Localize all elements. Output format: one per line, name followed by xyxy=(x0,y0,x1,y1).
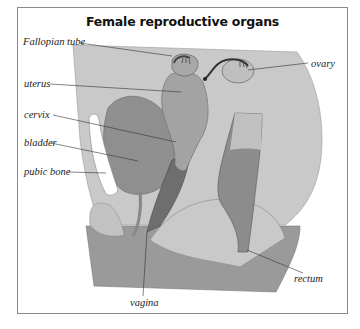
label-pubic-bone: pubic bone xyxy=(24,166,70,177)
label-ovary: ovary xyxy=(311,58,335,69)
label-vagina: vagina xyxy=(130,297,159,308)
ovary-shape xyxy=(222,59,254,83)
label-bladder: bladder xyxy=(24,137,57,148)
label-fallopian-tube: Fallopian tube xyxy=(23,36,85,47)
label-cervix: cervix xyxy=(24,109,50,120)
rectum-upper xyxy=(230,113,262,150)
label-rectum: rectum xyxy=(294,273,323,284)
label-uterus: uterus xyxy=(24,78,50,89)
